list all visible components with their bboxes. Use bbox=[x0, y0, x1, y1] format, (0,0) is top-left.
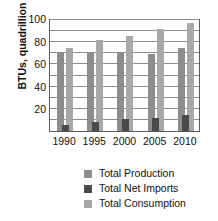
bar-total-consumption bbox=[66, 48, 73, 131]
y-tick-label: 60 bbox=[20, 59, 46, 69]
y-tick-label: 100 bbox=[20, 14, 46, 24]
bar-total-net-imports bbox=[182, 115, 189, 131]
legend-label: Total Production bbox=[99, 168, 174, 179]
chart-legend: Total ProductionTotal Net ImportsTotal C… bbox=[84, 166, 214, 211]
x-tick-label: 2010 bbox=[170, 135, 200, 147]
bar-group bbox=[171, 20, 201, 131]
y-tick-label: 80 bbox=[20, 37, 46, 47]
y-tick-label: 40 bbox=[20, 82, 46, 92]
legend-label: Total Consumption bbox=[99, 198, 186, 209]
legend-item: Total Net Imports bbox=[84, 181, 214, 196]
bar-total-net-imports bbox=[92, 122, 99, 131]
bar-chart-figure: BTUs, quadrillion 10080604020 1990199520… bbox=[0, 0, 218, 221]
bar-total-consumption bbox=[126, 36, 133, 131]
x-tick-label: 1990 bbox=[49, 135, 79, 147]
bar-total-production bbox=[87, 52, 94, 131]
bar-total-net-imports bbox=[62, 125, 69, 131]
legend-label: Total Net Imports bbox=[99, 183, 178, 194]
legend-item: Total Consumption bbox=[84, 196, 214, 211]
bar-group bbox=[110, 20, 140, 131]
x-tick-label: 1995 bbox=[79, 135, 109, 147]
y-axis-tick-labels: 10080604020 bbox=[16, 19, 46, 132]
x-tick-label: 2000 bbox=[109, 135, 139, 147]
legend-swatch-icon bbox=[84, 200, 92, 208]
bar-group bbox=[80, 20, 110, 131]
bar-total-net-imports bbox=[152, 118, 159, 131]
plot-area bbox=[49, 19, 200, 132]
legend-swatch-icon bbox=[84, 185, 92, 193]
legend-swatch-icon bbox=[84, 170, 92, 178]
bar-total-net-imports bbox=[122, 119, 129, 131]
x-tick-label: 2005 bbox=[140, 135, 170, 147]
y-tick-label: 20 bbox=[20, 104, 46, 114]
x-axis-tick-labels: 19901995200020052010 bbox=[49, 135, 200, 149]
bar-total-consumption bbox=[96, 40, 103, 131]
bar-group bbox=[141, 20, 171, 131]
bar-total-consumption bbox=[157, 29, 164, 131]
bar-total-production bbox=[57, 53, 64, 131]
legend-item: Total Production bbox=[84, 166, 214, 181]
bar-group bbox=[50, 20, 80, 131]
